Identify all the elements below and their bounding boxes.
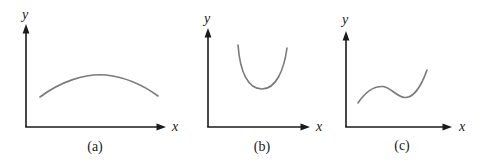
y-axis-arrowhead-icon bbox=[205, 28, 212, 38]
panel-a-curve bbox=[40, 75, 158, 97]
y-axis-label: y bbox=[340, 12, 349, 27]
figure-canvas: y x (a) y x (b) y x (c) bbox=[0, 0, 488, 163]
panel-c: y x (c) bbox=[340, 12, 466, 154]
panel-a-caption: (a) bbox=[87, 139, 103, 155]
x-axis-arrowhead-icon bbox=[157, 124, 167, 131]
y-axis-label: y bbox=[202, 11, 211, 26]
panel-b-curve bbox=[238, 45, 287, 89]
x-axis-arrowhead-icon bbox=[443, 124, 453, 131]
panel-c-curve bbox=[358, 70, 427, 103]
three-panel-function-sketch-figure: y x (a) y x (b) y x (c) bbox=[0, 0, 488, 163]
panel-c-caption: (c) bbox=[394, 138, 410, 154]
x-axis-arrowhead-icon bbox=[301, 124, 311, 131]
panel-b: y x (b) bbox=[202, 11, 323, 155]
panel-a: y x (a) bbox=[20, 7, 179, 155]
x-axis-label: x bbox=[171, 119, 179, 134]
x-axis-label: x bbox=[315, 119, 323, 134]
panel-b-caption: (b) bbox=[254, 139, 271, 155]
x-axis-label: x bbox=[458, 119, 466, 134]
y-axis-label: y bbox=[20, 7, 29, 22]
y-axis-arrowhead-icon bbox=[343, 31, 350, 41]
y-axis-arrowhead-icon bbox=[23, 24, 30, 34]
